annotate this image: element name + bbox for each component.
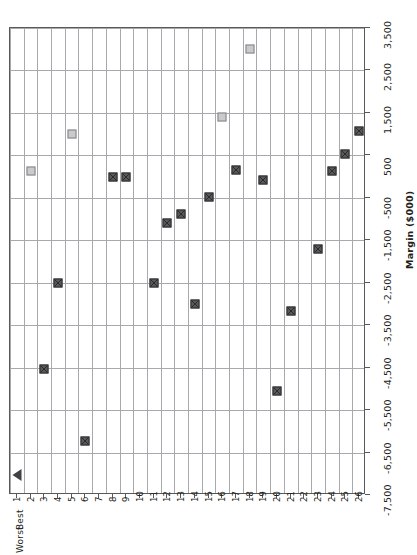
- rank-tick-label: 16: [217, 491, 227, 502]
- rank-tick-label: 24: [327, 491, 337, 502]
- rank-tick-label: 17: [231, 491, 241, 502]
- data-point-marker: [327, 167, 336, 176]
- margin-tick: [365, 69, 370, 70]
- data-point-marker: [286, 306, 295, 315]
- rank-tick-label: 5: [67, 496, 77, 502]
- data-point-marker: [218, 113, 227, 122]
- data-point-marker: [273, 386, 282, 395]
- margin-tick-label: -1,500: [382, 229, 393, 261]
- rank-tick-label: 14: [190, 491, 200, 502]
- rank-tick-label: 19: [258, 491, 268, 502]
- data-point-marker: [355, 126, 364, 135]
- rank-tick-label: 7: [94, 496, 104, 502]
- margin-tick-label: 3,500: [382, 21, 393, 49]
- rank-tick-label: 9: [121, 496, 131, 502]
- data-point-marker: [177, 209, 186, 218]
- margin-tick-label: -3,500: [382, 314, 393, 346]
- data-point-marker: [122, 172, 131, 181]
- rank-tick-label: 11: [149, 491, 159, 502]
- margin-tick: [365, 27, 370, 28]
- margin-tick-label: -5,500: [382, 399, 393, 431]
- margin-tick: [365, 112, 370, 113]
- margin-tick: [365, 452, 370, 453]
- rank-tick-label: 10: [135, 491, 145, 502]
- data-point-marker: [163, 219, 172, 228]
- margin-tick-label: -6,500: [382, 442, 393, 474]
- margin-tick: [365, 197, 370, 198]
- data-point-marker: [341, 149, 350, 158]
- rank-tick-label: 20: [272, 491, 282, 502]
- data-point-marker: [26, 167, 35, 176]
- rank-tick-label: 21: [286, 491, 296, 502]
- data-point-marker: [108, 173, 117, 182]
- margin-tick: [365, 324, 370, 325]
- data-point-marker: [40, 364, 49, 373]
- rank-tick-label: 18: [245, 491, 255, 502]
- rank-tick-label: 15: [204, 491, 214, 502]
- margin-tick-label: 2,500: [382, 63, 393, 91]
- rank-tick-label: 2: [26, 496, 36, 502]
- margin-tick-label: 1,500: [382, 106, 393, 134]
- rank-tick-label: 23: [313, 491, 323, 502]
- margin-tick: [365, 282, 370, 283]
- rank-tick-label: 26: [354, 491, 364, 502]
- rank-tick-label: 22: [299, 491, 309, 502]
- rank-tick-label: 3: [39, 496, 49, 502]
- plot-area: [9, 27, 365, 494]
- data-point-marker: [259, 176, 268, 185]
- data-point-marker: [67, 130, 76, 139]
- data-point-marker: [81, 436, 90, 445]
- margin-tick-label: -2,500: [382, 272, 393, 304]
- margin-tick: [365, 367, 370, 368]
- data-point-marker: [314, 244, 323, 253]
- rank-tick-label: 1: [12, 496, 22, 502]
- rank-tick-label: 25: [340, 491, 350, 502]
- data-point-marker: [245, 45, 254, 54]
- margin-tick-label: -7,500: [382, 484, 393, 516]
- margin-tick: [365, 239, 370, 240]
- data-point-marker: [231, 165, 240, 174]
- data-point-marker: [204, 192, 213, 201]
- chart-canvas: -7,500-6,500-5,500-4,500-3,500-2,500-1,5…: [0, 0, 417, 555]
- rank-tick-label: 12: [162, 491, 172, 502]
- margin-tick: [365, 154, 370, 155]
- data-point-marker: [53, 278, 62, 287]
- rank-tick-label: 13: [176, 491, 186, 502]
- margin-tick-label: 500: [382, 158, 393, 177]
- data-point-marker: [149, 278, 158, 287]
- data-markers: [10, 28, 364, 493]
- margin-tick: [365, 409, 370, 410]
- margin-tick-label: -500: [382, 196, 393, 218]
- rank-worst-label: Worst: [15, 526, 25, 553]
- rank-tick-label: 8: [108, 496, 118, 502]
- margin-tick: [365, 494, 370, 495]
- margin-axis-title: Margin ($000): [404, 191, 415, 269]
- data-point-marker: [12, 469, 21, 481]
- margin-tick-label: -4,500: [382, 357, 393, 389]
- rank-tick-label: 6: [80, 496, 90, 502]
- data-point-marker: [190, 299, 199, 308]
- rank-tick-label: 4: [53, 496, 63, 502]
